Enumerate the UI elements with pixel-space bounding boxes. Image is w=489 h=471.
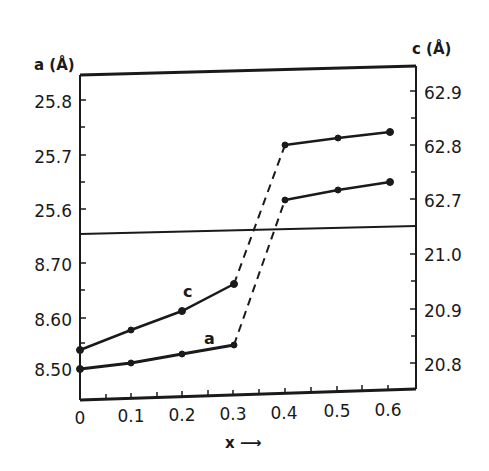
svg-text:8.60: 8.60: [34, 310, 72, 330]
series-c-label: c: [183, 282, 192, 301]
series-a-label: a: [204, 329, 215, 348]
svg-text:0.4: 0.4: [270, 403, 297, 423]
svg-text:8.70: 8.70: [34, 255, 72, 275]
x-tick-labels: 0 0.1 0.2 0.3 0.4 0.5 0.6: [75, 400, 402, 428]
left-tick-labels: 25.8 25.7 25.6 8.70 8.60 8.50: [34, 92, 72, 380]
svg-text:25.8: 25.8: [34, 92, 72, 112]
svg-text:20.8: 20.8: [424, 355, 462, 375]
svg-text:0.5: 0.5: [323, 401, 350, 421]
svg-text:0: 0: [75, 408, 86, 428]
chart-frame: [80, 66, 416, 400]
svg-text:62.7: 62.7: [424, 191, 462, 211]
svg-text:21.0: 21.0: [424, 245, 462, 265]
top-border: [80, 66, 416, 75]
x-axis-title: x ⟶: [225, 434, 261, 452]
left-axis-title: a (Å): [34, 55, 75, 74]
svg-text:0.3: 0.3: [219, 404, 246, 424]
panel-divider: [80, 226, 416, 234]
svg-text:25.6: 25.6: [34, 201, 72, 221]
right-tick-labels: 62.9 62.8 62.7 21.0 20.9 20.8: [424, 83, 462, 375]
svg-text:0.6: 0.6: [374, 400, 401, 420]
lattice-parameter-chart: a (Å) c (Å) x ⟶ 25.8 25.7 25.6 8.70 8.60…: [0, 0, 489, 471]
svg-text:25.7: 25.7: [34, 147, 72, 167]
svg-text:0.2: 0.2: [168, 405, 195, 425]
right-axis-title: c (Å): [412, 39, 451, 58]
svg-text:62.9: 62.9: [424, 83, 462, 103]
svg-text:0.1: 0.1: [117, 406, 144, 426]
svg-text:8.50: 8.50: [34, 360, 72, 380]
series-a: [77, 179, 394, 373]
series-c: [77, 129, 394, 354]
svg-text:20.9: 20.9: [424, 301, 462, 321]
svg-text:62.8: 62.8: [424, 137, 462, 157]
